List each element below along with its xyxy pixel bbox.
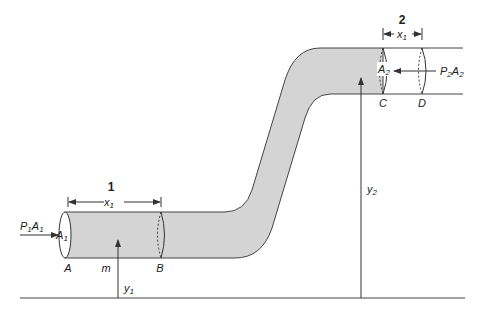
point-d-label: D [418,97,426,109]
height-y1-label: y1 [123,282,134,296]
force-p2a2-label: P2A2 [440,65,464,79]
section2-number: 2 [399,13,406,27]
point-a-label: A [63,262,71,274]
section1-length-label: x1 [103,196,114,210]
pipe-body [65,48,383,258]
section1-number: 1 [108,180,115,194]
force-p1a1-label: P1A1 [20,220,44,234]
point-b-label: B [156,262,163,274]
point-c-label: C [379,97,387,109]
mass-label: m [101,262,110,274]
section2-length-label: x1 [396,28,407,42]
pipe-diagram: 1 x1 P1A1 A1 A m A B y1 2 x1 A2 P2A2 C D… [0,0,485,312]
height-y2-label: y2 [366,183,378,197]
